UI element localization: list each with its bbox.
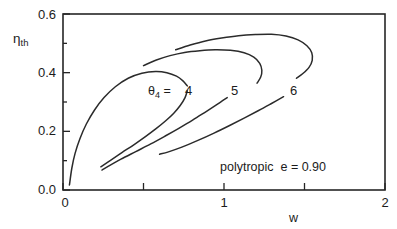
y-axis-title: ηth	[13, 32, 28, 47]
curve-6-upper	[176, 34, 313, 78]
curve-label-6: 6	[290, 84, 297, 97]
theta-subscript: 4	[155, 90, 160, 100]
curve-5-upper	[144, 50, 262, 83]
x-tick-label-0: 0	[59, 196, 71, 209]
polytropic-text: polytropic	[220, 160, 274, 174]
curve-4-lower	[101, 91, 187, 167]
curve-label-5: 5	[231, 84, 238, 97]
x-tick-label-1: 1	[218, 196, 230, 209]
y-axis-title-subscript: th	[21, 37, 29, 48]
x-tick-label-2: 2	[379, 196, 391, 209]
chart-figure: 0.0 0.2 0.4 0.6 0 1 2 ηth w θ4 = 4 5 6 p…	[0, 0, 397, 229]
y-tick-label-3: 0.6	[24, 8, 56, 21]
x-axis-ticks	[63, 183, 385, 190]
y-axis-title-base: η	[13, 31, 21, 46]
curve-6-lower	[160, 97, 284, 154]
y-tick-label-2: 0.4	[24, 66, 56, 79]
x-axis-title: w	[289, 212, 298, 225]
plot-canvas	[0, 0, 397, 229]
y-axis-ticks	[63, 14, 70, 190]
y-tick-label-1: 0.2	[24, 124, 56, 137]
y-tick-label-0: 0.0	[24, 183, 56, 196]
theta-symbol: θ	[148, 84, 155, 98]
theta-equals: =	[163, 84, 170, 98]
efficiency-text: e = 0.90	[280, 160, 326, 174]
polytropic-annotation: polytropic e = 0.90	[220, 161, 326, 174]
curve-5-lower	[102, 98, 227, 170]
theta-parameter-label: θ4 =	[148, 85, 171, 100]
curve-label-4: 4	[185, 84, 192, 97]
